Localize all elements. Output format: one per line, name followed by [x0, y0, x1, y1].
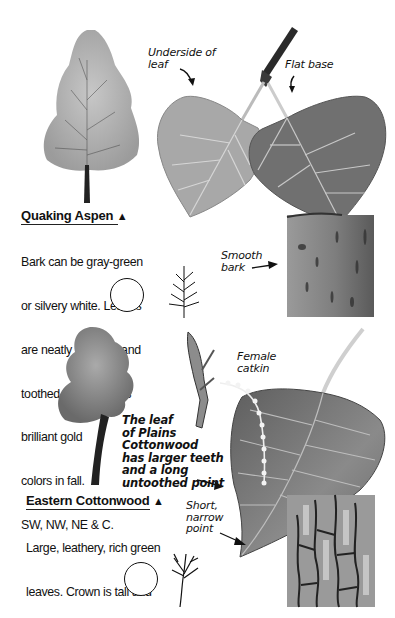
quaking-aspen-tree-illustration [35, 20, 145, 205]
checkbox-circle-eastern-cottonwood[interactable] [124, 562, 158, 596]
species-name: Quaking Aspen [21, 208, 113, 223]
aspen-leaves-illustration [150, 25, 395, 225]
cottonwood-bark-illustration [287, 495, 377, 607]
species-name: Eastern Cottonwood [26, 493, 150, 508]
range-triangle-icon: ▲ [117, 210, 128, 222]
aspen-bark-illustration [287, 207, 377, 317]
checkbox-circle-quaking-aspen[interactable] [110, 278, 144, 312]
aspen-winter-silhouette-icon [167, 262, 201, 318]
species-title-quaking-aspen: Quaking Aspen ▲ [21, 208, 118, 225]
arrow-icon [250, 260, 280, 272]
arrow-icon [218, 530, 248, 550]
cottonwood-winter-silhouette-icon [170, 552, 200, 607]
range-triangle-icon: ▲ [153, 495, 164, 507]
species-title-eastern-cottonwood: Eastern Cottonwood ▲ [26, 493, 150, 510]
